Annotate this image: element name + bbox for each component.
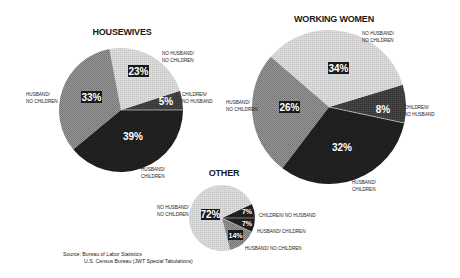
housewives-label-nhnc-2: NO CHILDREN (162, 58, 194, 63)
housewives-label-hnc: HUSBAND/ (26, 92, 50, 97)
source-line-1: Source: Bureau of Labor Statistics (63, 251, 142, 257)
other-pct-cnh: 7% (242, 208, 253, 215)
chart-canvas: HOUSEWIVES 23% 33% 5% 39% NO HUSBAND/ NO… (0, 0, 460, 278)
other-label-hnc: HUSBAND/ NO CHILDREN (245, 246, 302, 251)
housewives-pct-hnc: 33% (81, 92, 101, 103)
housewives-label-nhnc: NO HUSBAND/ (162, 51, 195, 56)
other-title: OTHER (209, 168, 240, 178)
working-label-hc: HUSBAND/ (352, 180, 376, 185)
working-label-hnc: HUSBAND/ (226, 100, 250, 105)
working-label-cnh-2: NO HUSBAND (404, 112, 435, 117)
other-label-nhnc-2: NO CHILDREN (157, 212, 189, 217)
working-label-cnh: CHILDREN/ (404, 105, 429, 110)
working-women-title: WORKING WOMEN (294, 14, 374, 24)
working-label-nhnc: NO HUSBAND/ (362, 31, 395, 36)
source-note: Source: Bureau of Labor Statistics U.S. … (63, 251, 193, 264)
working-label-hc-2: CHILDREN (352, 187, 375, 192)
housewives-pie: HOUSEWIVES 23% 33% 5% 39% NO HUSBAND/ NO… (26, 27, 213, 179)
working-pct-hc: 32% (332, 142, 352, 153)
housewives-pct-cnh: 5% (159, 96, 174, 107)
working-pct-nhnc: 34% (328, 63, 348, 74)
working-label-nhnc-2: NO CHILDREN (362, 38, 394, 43)
housewives-label-hc: HUSBAND/ (141, 167, 165, 172)
housewives-label-hnc-2: NO CHILDREN (26, 99, 58, 104)
other-pie: OTHER 72% 7% 7% 14% NO HUSBAND/ NO CHILD… (157, 168, 316, 251)
working-pct-cnh: 8% (376, 104, 391, 115)
other-pct-nhnc: 72% (200, 209, 220, 220)
other-pct-hc: 7% (242, 220, 253, 227)
working-women-pie: WORKING WOMEN 34% 26% 8% 32% NO HUSBAND/… (226, 14, 435, 192)
other-label-cnh: CHILDREN/ NO HUSBAND (259, 213, 316, 218)
other-pct-hnc: 14% (228, 232, 243, 239)
housewives-label-cnh-2: NO HUSBAND (182, 99, 213, 104)
housewives-label-hc-2: CHILDREN (141, 174, 164, 179)
housewives-pct-nhnc: 23% (128, 66, 148, 77)
housewives-label-cnh: CHILDREN/ (182, 92, 207, 97)
source-line-2: U.S. Census Bureau (JWT Special Tabulati… (84, 258, 193, 264)
working-pct-hnc: 26% (279, 102, 299, 113)
other-label-nhnc: NO HUSBAND/ (157, 205, 190, 210)
housewives-pct-hc: 39% (123, 131, 143, 142)
other-label-hc: HUSBAND/ CHILDREN (257, 229, 306, 234)
working-label-hnc-2: NO CHILDREN (226, 107, 258, 112)
housewives-title: HOUSEWIVES (92, 27, 151, 37)
